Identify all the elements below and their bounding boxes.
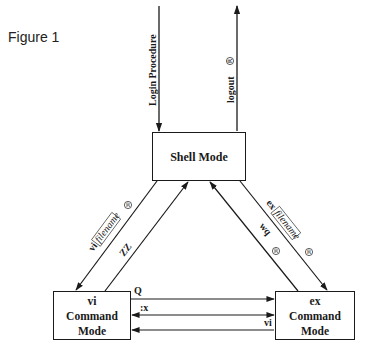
shell-mode-label: Shell Mode xyxy=(170,150,228,164)
q-label: Q xyxy=(134,285,142,296)
vi-mode-line1: vi xyxy=(88,295,98,307)
return-key-icon: R xyxy=(226,57,234,64)
svg-text:R: R xyxy=(274,247,278,254)
vi-mode-line3: Mode xyxy=(78,325,106,337)
mode-transition-diagram: Login Procedure logout R Shell Mode vi f… xyxy=(0,0,373,349)
svg-text:R: R xyxy=(307,248,311,255)
vi-mode-line2: Command xyxy=(66,310,118,322)
login-label: Login Procedure xyxy=(147,34,158,106)
edge-logout: logout R xyxy=(225,6,237,131)
vi-label: vi xyxy=(264,317,272,328)
ex-mode-line2: Command xyxy=(289,310,341,322)
vi-filename-label: filename xyxy=(92,210,122,245)
return-key-icon: R xyxy=(124,201,131,209)
node-shell-mode: Shell Mode xyxy=(153,133,246,181)
edge-shell-to-vi: vi filename R xyxy=(76,181,157,290)
node-ex-command-mode: ex Command Mode xyxy=(276,292,355,340)
return-key-icon: R xyxy=(272,247,279,255)
return-key-icon: R xyxy=(305,248,312,256)
logout-label: logout xyxy=(225,76,236,103)
edge-ex-to-vi: vi xyxy=(132,317,274,330)
vi-to-shell-arrow xyxy=(105,182,188,291)
ex-filename-label: filename xyxy=(273,208,303,242)
x-label: :x xyxy=(140,302,148,313)
edge-vi-to-shell: ZZ xyxy=(105,182,188,291)
edge-ex-vi-x: :x xyxy=(132,302,274,315)
ex-mode-line1: ex xyxy=(310,295,321,307)
node-vi-command-mode: vi Command Mode xyxy=(54,292,131,340)
svg-text:R: R xyxy=(226,59,233,63)
wq-label: wq xyxy=(257,220,274,237)
ex-command-label: ex xyxy=(264,197,278,211)
ex-mode-line3: Mode xyxy=(301,325,329,337)
edge-login: Login Procedure xyxy=(147,6,159,131)
svg-text:R: R xyxy=(126,201,130,208)
edge-vi-to-ex-q: Q xyxy=(131,285,274,299)
shell-to-vi-arrow xyxy=(76,181,157,290)
